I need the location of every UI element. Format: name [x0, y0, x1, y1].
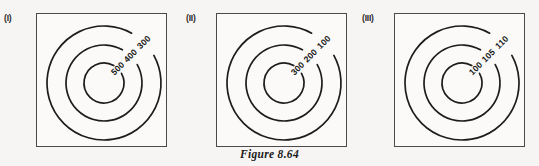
contour-label: 100 [467, 60, 485, 78]
contour-label: 400 [122, 47, 140, 65]
panel-tag: (III) [362, 13, 374, 23]
contour-label: 300 [289, 60, 307, 78]
contour-label: 105 [480, 47, 498, 65]
contour-group: 100200300 [216, 13, 347, 147]
contour-group: 300400500 [36, 13, 167, 147]
panel-tag: (I) [4, 13, 11, 23]
contour-label: 500 [109, 60, 127, 78]
contour-label: 100 [315, 33, 333, 51]
figure-caption: Figure 8.64 [0, 148, 539, 160]
contour-panel: 110105100 [394, 13, 525, 147]
contour-label: 110 [493, 34, 510, 51]
panel-tag: (II) [186, 13, 196, 23]
contour-panel: 300400500 [36, 13, 167, 147]
contour-group: 110105100 [394, 13, 525, 147]
contour-label: 300 [135, 33, 153, 51]
contour-label: 200 [302, 47, 320, 65]
contour-panel: 100200300 [216, 13, 347, 147]
figure-8-64: 300400500100200300110105100 Figure 8.64 … [0, 0, 539, 166]
